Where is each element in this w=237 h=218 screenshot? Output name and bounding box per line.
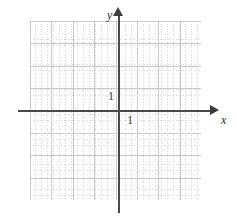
y-axis-arrow-icon	[113, 7, 123, 16]
coordinate-plane-figure: y x 1 1	[0, 0, 237, 218]
x-axis-tick-label-one: 1	[127, 114, 133, 126]
x-axis-line	[18, 110, 216, 112]
y-axis-label: y	[107, 9, 112, 21]
x-axis-arrow-icon	[210, 105, 219, 115]
y-axis-tick-label-one: 1	[108, 90, 114, 102]
x-axis-label: x	[221, 114, 226, 126]
y-axis-line	[118, 14, 120, 213]
